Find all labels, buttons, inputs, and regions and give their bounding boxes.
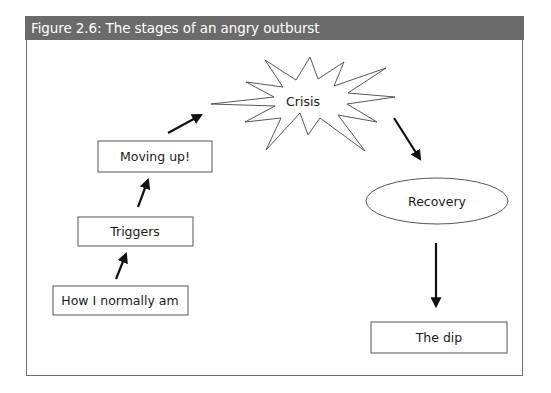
node-recovery-label: Recovery <box>408 194 466 209</box>
node-moving-up-label: Moving up! <box>120 149 190 164</box>
arrow-moving-up-to-crisis <box>168 115 201 133</box>
node-the-dip-label: The dip <box>416 330 463 345</box>
arrow-normal-to-triggers <box>116 254 126 279</box>
node-how-i-normally-am-label: How I normally am <box>61 293 178 308</box>
node-triggers-label: Triggers <box>110 224 160 239</box>
diagram-canvas <box>0 0 551 393</box>
arrow-triggers-to-moving-up <box>138 180 148 207</box>
node-crisis-label: Crisis <box>286 94 320 109</box>
arrow-crisis-to-recovery <box>394 118 420 159</box>
